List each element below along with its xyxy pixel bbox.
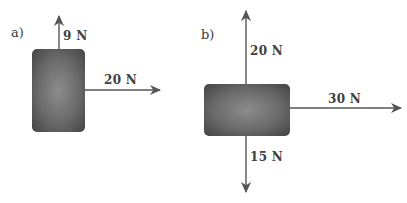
force-label-b-up: 20 N <box>250 44 283 58</box>
force-label-a-up: 9 N <box>63 29 87 43</box>
force-label-b-down: 15 N <box>250 150 283 164</box>
diagram-b <box>204 11 401 192</box>
block-a <box>32 49 85 132</box>
block-b <box>204 84 290 136</box>
force-label-a-right: 20 N <box>104 73 137 87</box>
diagram-a <box>32 16 160 132</box>
diagram-a-label: a) <box>11 25 24 40</box>
force-label-b-right: 30 N <box>328 92 361 106</box>
diagram-b-label: b) <box>201 27 214 42</box>
